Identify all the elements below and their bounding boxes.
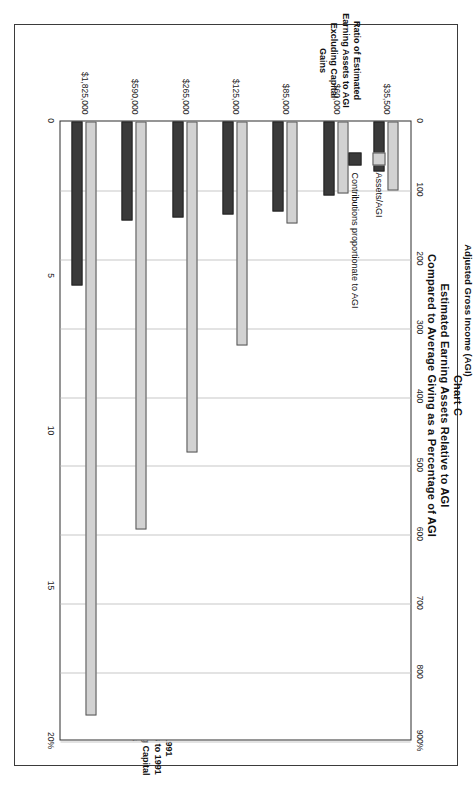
chart-title-line-1: Chart C [451,0,463,790]
primary-tick-label: 800 [414,664,424,678]
primary-tick-label: 900% [414,729,424,751]
primary-tick-label: 300 [414,320,424,334]
chart-title-line-2: Estimated Earning Assets Relative to AGI [438,0,450,790]
legend-item: Contributions proportionate to AGI [348,152,361,308]
secondary-tick-label: 0 [45,118,55,123]
bar-assets-1 [387,121,398,190]
chart-legend: Assets/AGIContributions proportionate to… [337,152,385,308]
bar-row [209,121,259,739]
bar-contributions-5 [172,121,183,217]
bar-assets-7 [85,121,96,715]
chart-page: Chart C Estimated Earning Assets Relativ… [0,0,473,790]
category-label: $590,000 [129,58,139,114]
primary-tick-label: 0 [414,118,424,123]
secondary-tick-label: 10 [45,425,55,434]
category-label: $35,500 [381,58,391,114]
primary-tick-label: 700 [414,595,424,609]
category-axis-title: Adjusted Gross Income (AGI) [462,0,473,620]
category-label: $265,000 [180,58,190,114]
legend-label: Contributions proportionate to AGI [350,172,360,308]
primary-tick-label: 200 [414,251,424,265]
legend-label: Assets/AGI [374,172,384,217]
category-label: $60,000 [331,58,341,114]
bar-row [58,121,108,739]
secondary-tick-label: 5 [45,273,55,278]
bar-contributions-3 [272,121,283,211]
bar-contributions-7 [71,121,82,285]
legend-swatch-icon [348,152,361,165]
primary-tick-label: 600 [414,526,424,540]
gridline [60,741,410,742]
bar-contributions-4 [222,121,233,214]
bar-contributions-2 [323,121,334,195]
chart-landscape-canvas: Chart C Estimated Earning Assets Relativ… [0,0,473,790]
legend-swatch-icon [372,152,385,165]
bar-assets-3 [286,121,297,223]
primary-tick-label: 500 [414,457,424,471]
bar-row [108,121,158,739]
primary-tick-label: 400 [414,388,424,402]
chart-title-line-3: Compared to Average Giving as a Percenta… [425,0,437,790]
rotated-canvas-wrapper: Chart C Estimated Earning Assets Relativ… [0,0,473,790]
primary-tick-label: 100 [414,182,424,196]
bar-row [159,121,209,739]
secondary-tick-label: 20% [45,731,55,748]
bar-assets-6 [135,121,146,529]
secondary-tick-label: 15 [45,580,55,589]
category-label: $1,825,000 [79,58,89,114]
bar-assets-5 [186,121,197,452]
chart-title-block: Chart C Estimated Earning Assets Relativ… [425,0,463,790]
legend-item: Assets/AGI [372,152,385,308]
bar-contributions-6 [121,121,132,220]
bar-assets-4 [236,121,247,345]
bar-row [259,121,309,739]
category-label: $125,000 [230,58,240,114]
category-label: $85,000 [280,58,290,114]
